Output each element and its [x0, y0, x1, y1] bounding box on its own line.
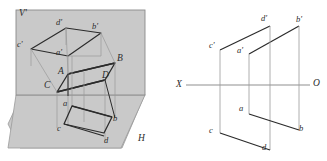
horizontal-plane-H-skew — [8, 95, 145, 148]
label-point-c-ortho: c — [209, 126, 213, 135]
label-ground-line-O: O — [313, 79, 320, 88]
top-view-edges — [220, 114, 299, 150]
pictorial-view — [8, 10, 145, 148]
label-point-b-prime-pictorial: b' — [92, 22, 98, 31]
label-point-b-pictorial: b — [113, 114, 117, 123]
label-point-c-prime-ortho: c' — [209, 41, 215, 50]
label-ground-line-X: X — [176, 80, 182, 89]
label-vertical-plane-V: V' — [19, 9, 27, 18]
label-point-a-ortho: a — [239, 104, 243, 113]
label-point-d-prime-pictorial: d' — [56, 18, 62, 27]
label-point-A: A — [58, 67, 64, 76]
label-point-D: D — [102, 71, 109, 80]
vertical-plane-V — [16, 10, 145, 95]
label-point-B: B — [117, 54, 123, 63]
label-point-d-prime-ortho: d' — [261, 14, 267, 23]
label-point-a-pictorial: a — [63, 99, 67, 108]
label-point-d-pictorial: d — [104, 136, 108, 145]
label-point-b-prime-ortho: b' — [296, 15, 302, 24]
label-point-a-prime-pictorial: a' — [56, 48, 62, 57]
label-point-c-prime-pictorial: c' — [17, 40, 23, 49]
label-point-d-ortho: d — [262, 143, 266, 152]
label-horizontal-plane-H: H — [138, 134, 145, 143]
label-point-c-pictorial: c — [57, 124, 61, 133]
label-point-b-ortho: b — [299, 124, 303, 133]
label-point-a-prime-ortho: a' — [237, 46, 243, 55]
figure-canvas: V' H a' b' c' d' A B C D a b c d X O a' … — [0, 0, 327, 161]
label-point-C: C — [44, 81, 50, 90]
